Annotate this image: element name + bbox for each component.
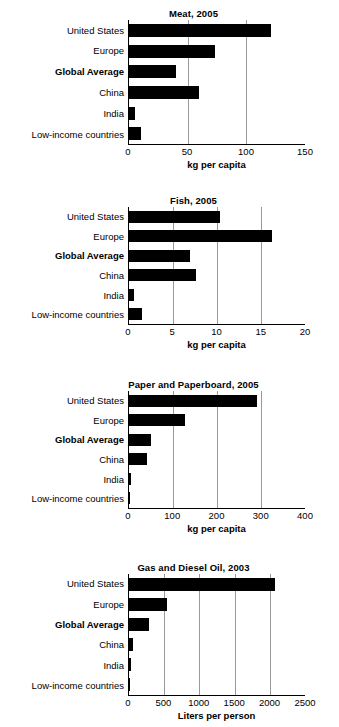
- category-axis: United StatesEuropeGlobal AverageChinaIn…: [0, 20, 128, 145]
- bar-row: [129, 614, 305, 634]
- category-label: Global Average: [0, 615, 124, 635]
- bar-row: [129, 450, 305, 470]
- bar-row: [129, 20, 305, 41]
- chart-title: Fish, 2005: [0, 195, 339, 207]
- category-label: United States: [0, 20, 124, 41]
- bar: [129, 618, 149, 631]
- x-axis-title: kg per capita: [128, 339, 305, 351]
- bar-row: [129, 411, 305, 431]
- category-label: United States: [0, 207, 124, 227]
- bar: [129, 434, 151, 446]
- x-tick-label: 50: [182, 146, 193, 157]
- x-tick-label: 0: [125, 697, 130, 708]
- bar-group: [129, 207, 305, 324]
- bar-row: [129, 635, 305, 655]
- bar: [129, 24, 271, 37]
- x-tick-label: 300: [253, 510, 269, 521]
- bar-row: [129, 469, 305, 489]
- category-label: India: [0, 103, 124, 124]
- category-label: United States: [0, 391, 124, 411]
- bar: [129, 395, 257, 407]
- plot-area: [128, 391, 305, 509]
- bar-group: [129, 391, 305, 508]
- x-tick-label: 5: [170, 326, 175, 337]
- bar: [129, 127, 141, 140]
- category-axis: United StatesEuropeGlobal AverageChinaIn…: [0, 207, 128, 325]
- plot-wrap: United StatesEuropeGlobal AverageChinaIn…: [0, 391, 339, 509]
- plot-wrap: United StatesEuropeGlobal AverageChinaIn…: [0, 574, 339, 696]
- chart-panel: Fish, 2005United StatesEuropeGlobal Aver…: [0, 195, 339, 351]
- bar: [129, 45, 215, 58]
- bar: [129, 308, 142, 320]
- bar-row: [129, 103, 305, 124]
- bar-row: [129, 285, 305, 305]
- x-tick-label: 0: [125, 510, 130, 521]
- category-label: India: [0, 470, 124, 490]
- x-tick-label: 150: [297, 146, 313, 157]
- x-tick-label: 10: [211, 326, 222, 337]
- x-axis-ticks: 05101520: [128, 325, 305, 339]
- category-label: Europe: [0, 594, 124, 614]
- category-axis: United StatesEuropeGlobal AverageChinaIn…: [0, 574, 128, 696]
- category-label: Global Average: [0, 62, 124, 83]
- x-axis-title: kg per capita: [128, 159, 305, 171]
- category-label: Europe: [0, 411, 124, 431]
- category-label: United States: [0, 574, 124, 594]
- x-tick-label: 1000: [188, 697, 209, 708]
- x-tick-label: 400: [297, 510, 313, 521]
- bar: [129, 658, 131, 671]
- x-axis-ticks: 0100200300400: [128, 509, 305, 523]
- category-label: Low-income countries: [0, 305, 124, 325]
- x-tick-label: 1500: [224, 697, 245, 708]
- x-tick-label: 15: [255, 326, 266, 337]
- bar-row: [129, 594, 305, 614]
- bar-row: [129, 574, 305, 594]
- category-label: Europe: [0, 41, 124, 62]
- chart-panel: Meat, 2005United StatesEuropeGlobal Aver…: [0, 8, 339, 171]
- bar: [129, 250, 190, 262]
- bar: [129, 453, 147, 465]
- bar-row: [129, 391, 305, 411]
- bar-group: [129, 574, 305, 695]
- bar-row: [129, 655, 305, 675]
- bar-row: [129, 61, 305, 82]
- bar-row: [129, 123, 305, 144]
- bar-row: [129, 82, 305, 103]
- bar-row: [129, 227, 305, 247]
- bar: [129, 492, 130, 504]
- category-label: Europe: [0, 227, 124, 247]
- bar: [129, 230, 272, 242]
- category-label: India: [0, 286, 124, 306]
- x-tick-label: 100: [238, 146, 254, 157]
- category-label: China: [0, 266, 124, 286]
- bar-row: [129, 305, 305, 325]
- bar: [129, 107, 135, 120]
- bar-row: [129, 675, 305, 695]
- bar: [129, 678, 130, 691]
- category-label: Low-income countries: [0, 676, 124, 696]
- bar: [129, 598, 167, 611]
- category-label: Global Average: [0, 430, 124, 450]
- x-tick-label: 100: [164, 510, 180, 521]
- plot-area: [128, 574, 305, 696]
- category-label: Low-income countries: [0, 124, 124, 145]
- x-tick-label: 0: [125, 146, 130, 157]
- x-axis-title: kg per capita: [128, 523, 305, 535]
- plot-wrap: United StatesEuropeGlobal AverageChinaIn…: [0, 20, 339, 145]
- chart-title: Meat, 2005: [0, 8, 339, 20]
- category-label: China: [0, 635, 124, 655]
- category-axis: United StatesEuropeGlobal AverageChinaIn…: [0, 391, 128, 509]
- chart-title: Gas and Diesel Oil, 2003: [0, 562, 339, 574]
- plot-area: [128, 207, 305, 325]
- category-label: China: [0, 82, 124, 103]
- x-tick-label: 2000: [259, 697, 280, 708]
- bar: [129, 65, 176, 78]
- category-label: India: [0, 655, 124, 675]
- x-tick-label: 20: [300, 326, 311, 337]
- figure-sheet: Meat, 2005United StatesEuropeGlobal Aver…: [0, 8, 339, 727]
- bar: [129, 289, 134, 301]
- bar-row: [129, 266, 305, 286]
- chart-panel: Paper and Paperboard, 2005United StatesE…: [0, 379, 339, 535]
- bar: [129, 578, 275, 591]
- x-tick-label: 0: [125, 326, 130, 337]
